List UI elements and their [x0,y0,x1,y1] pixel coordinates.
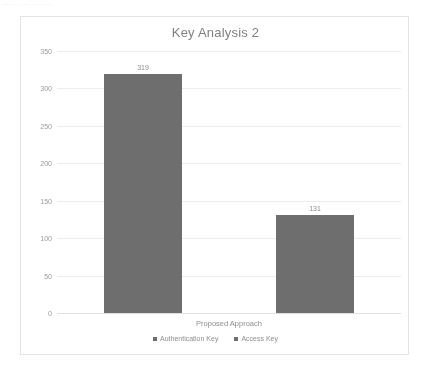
y-axis-tick-label: 300 [40,85,52,92]
legend-label: Access Key [241,335,278,342]
chart-frame: Key Analysis 2 0501001502002503003503191… [20,16,409,355]
legend-swatch-icon [153,337,157,341]
gridline [57,313,401,314]
y-axis-tick-label: 150 [40,197,52,204]
legend-item-authentication-key[interactable]: Authentication Key [153,335,218,342]
legend-label: Authentication Key [160,335,218,342]
chart-title: Key Analysis 2 [21,25,410,40]
legend-item-access-key[interactable]: Access Key [234,335,278,342]
gridline [57,51,401,52]
y-axis-tick-label: 200 [40,160,52,167]
x-axis-category-label: Proposed Approach [57,319,401,328]
bar[interactable] [104,74,182,313]
y-axis-tick-label: 0 [48,310,52,317]
bar[interactable] [276,215,354,313]
y-axis-tick-label: 350 [40,48,52,55]
y-axis-tick-label: 250 [40,122,52,129]
scan-artifact-text: ........ .. ..... ...... ..... [2,0,88,7]
bar-value-label: 319 [137,64,149,71]
y-axis-tick-label: 50 [44,272,52,279]
legend-swatch-icon [234,337,238,341]
y-axis-tick-label: 100 [40,235,52,242]
bar-value-label: 131 [309,205,321,212]
chart-legend: Authentication Key Access Key [21,335,410,342]
plot-area: 050100150200250300350319131 [57,51,401,313]
